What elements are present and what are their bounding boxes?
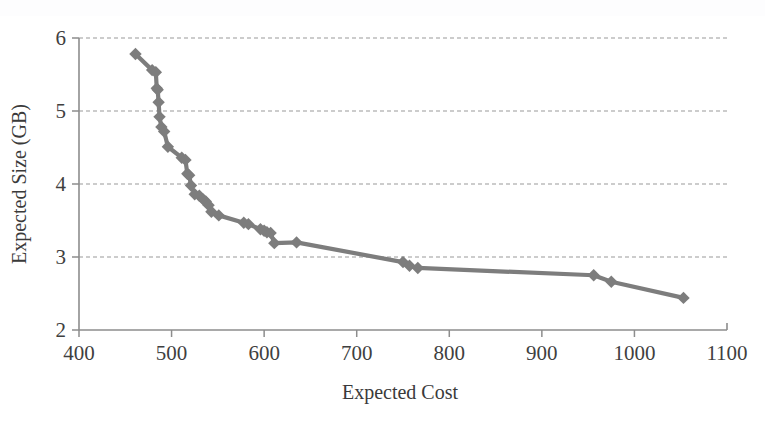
x-tick-label-1100: 1100 [706,341,747,365]
data-point-marker [677,292,689,304]
data-point-marker [587,269,599,281]
y-tick-label-4: 4 [56,172,67,196]
data-point-marker [605,276,617,288]
x-tick-label-600: 600 [248,341,280,365]
y-tick-label-2: 2 [56,318,67,342]
expected-size-vs-cost-chart: 40050060070080090010001100 23456 Expecte… [0,0,765,430]
x-tick-label-500: 500 [156,341,188,365]
x-tick-label-700: 700 [341,341,373,365]
x-axis-title: Expected Cost [342,381,459,404]
y-tick-label-6: 6 [56,26,67,50]
chart-figure: 40050060070080090010001100 23456 Expecte… [0,0,765,430]
x-tick-label-1000: 1000 [613,341,655,365]
x-tick-label-400: 400 [63,341,95,365]
gridlines-group [79,38,727,257]
y-axis-title: Expected Size (GB) [8,104,31,264]
y-tick-labels-group: 23456 [56,26,67,342]
data-point-marker [152,96,164,108]
data-point-marker [268,237,280,249]
y-tick-label-5: 5 [56,99,67,123]
data-point-marker [153,111,165,123]
data-point-marker [290,236,302,248]
x-tick-label-900: 900 [526,341,558,365]
x-tick-label-800: 800 [434,341,466,365]
x-tick-labels-group: 40050060070080090010001100 [63,341,747,365]
data-series-group [129,48,689,304]
data-point-marker [151,84,163,96]
y-tick-label-3: 3 [56,245,67,269]
